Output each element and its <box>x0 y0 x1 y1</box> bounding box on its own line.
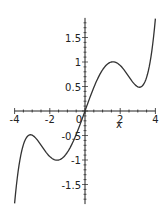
x-tick-label: -4 <box>10 114 20 125</box>
y-tick-label: 0.5 <box>65 82 81 93</box>
x-axis-label: x <box>116 119 122 130</box>
y-tick-label: -0.5 <box>61 131 81 142</box>
y-tick-label: 1.5 <box>65 33 81 44</box>
x-tick-label: -2 <box>45 114 55 125</box>
y-tick-label: -1.5 <box>61 180 81 191</box>
y-tick-label: -1 <box>71 155 81 166</box>
y-tick-label: 1 <box>75 57 81 68</box>
x-tick-label: 4 <box>152 114 158 125</box>
x-tick-label: 0 <box>76 114 82 125</box>
line-chart: -4-2024-1.5-1-0.50.511.5 x <box>0 0 166 218</box>
